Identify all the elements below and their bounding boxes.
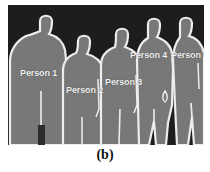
person-3-leg-seam xyxy=(119,109,120,145)
person-1-label: Person 1 xyxy=(20,68,57,78)
figure-panel: Person 1 Person 2 Person 3 Person 4 Pers… xyxy=(0,0,210,172)
person-5-label: Person 5 xyxy=(171,50,204,60)
person-1-leg-gap xyxy=(38,125,45,145)
person-2-label: Person 2 xyxy=(66,85,103,95)
segmentation-image: Person 1 Person 2 Person 3 Person 4 Pers… xyxy=(8,5,204,145)
person-5-leg-seam xyxy=(191,103,192,117)
person-3-label: Person 3 xyxy=(105,77,142,87)
person-4-label: Person 4 xyxy=(130,50,167,60)
person-5-arm-seam xyxy=(198,63,199,89)
figure-caption: (b) xyxy=(0,147,210,163)
